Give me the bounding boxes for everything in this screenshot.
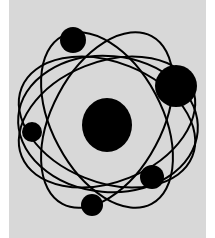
nucleus <box>82 98 132 152</box>
electron-top <box>60 27 86 53</box>
electron-bottom <box>81 194 103 216</box>
electron-left <box>22 122 42 142</box>
canvas <box>0 0 215 238</box>
atom-illustration <box>0 0 215 238</box>
electron-right-large <box>155 65 197 107</box>
electron-lower-right <box>140 165 164 189</box>
